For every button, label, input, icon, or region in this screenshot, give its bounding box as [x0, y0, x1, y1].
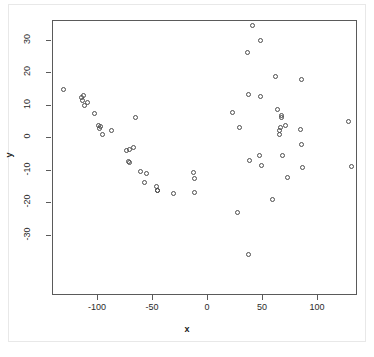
y-tick: [46, 137, 51, 138]
y-tick-label: -20: [22, 186, 32, 216]
x-tick: [207, 295, 208, 300]
y-tick-label: -30: [22, 219, 32, 249]
x-tick: [152, 295, 153, 300]
scatter-plot-figure: -30-20-100102030 -100-50050100 x y: [0, 0, 374, 357]
x-tick: [317, 295, 318, 300]
axis-annotations: -30-20-100102030 -100-50050100: [0, 0, 374, 357]
x-axis-label: x: [0, 324, 374, 334]
x-tick-label: 0: [187, 302, 227, 312]
x-tick-label: 50: [242, 302, 282, 312]
y-axis-label: y: [4, 152, 14, 157]
y-tick: [46, 202, 51, 203]
y-tick: [46, 235, 51, 236]
x-tick-label: -50: [132, 302, 172, 312]
y-tick: [46, 72, 51, 73]
y-tick-label: 30: [22, 24, 32, 54]
y-tick-label: 20: [22, 56, 32, 86]
x-tick: [262, 295, 263, 300]
y-tick-label: 0: [22, 121, 32, 151]
y-tick: [46, 170, 51, 171]
y-tick: [46, 40, 51, 41]
y-tick: [46, 105, 51, 106]
y-tick-label: 10: [22, 89, 32, 119]
x-tick: [97, 295, 98, 300]
y-tick-label: -10: [22, 154, 32, 184]
x-tick-label: 100: [297, 302, 337, 312]
x-tick-label: -100: [77, 302, 117, 312]
